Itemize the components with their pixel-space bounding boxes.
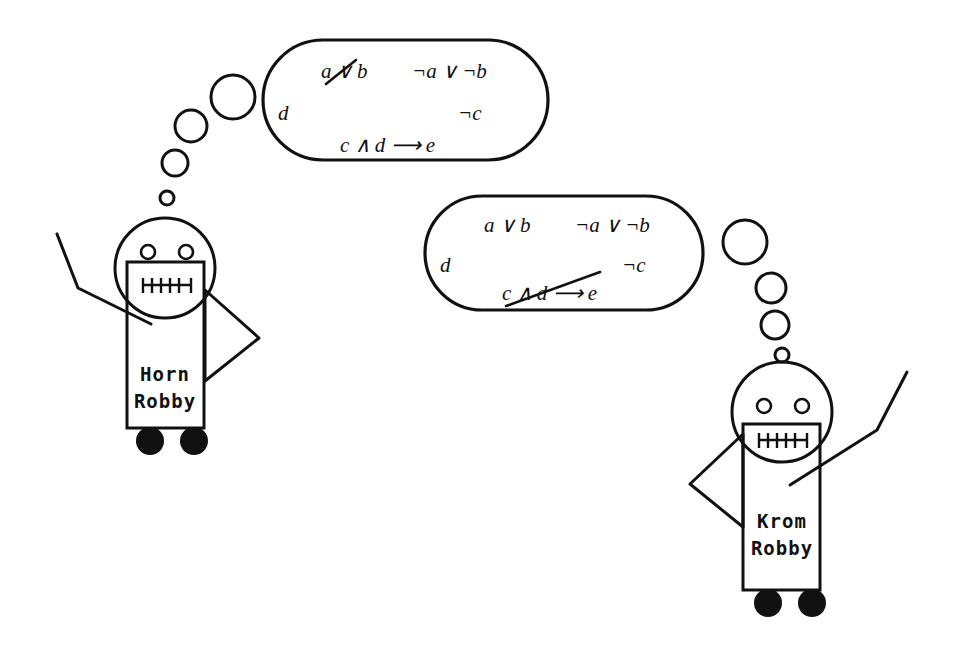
robot-right-arm: [205, 290, 259, 381]
krom-bubble-formulas: a ∨ b ¬a ∨ ¬b d ¬c c ∧ d ⟶ e: [440, 213, 650, 306]
robot-mouth: [759, 433, 807, 448]
robot-wheel-left: [754, 589, 782, 617]
formula-not-c: ¬c: [458, 101, 482, 125]
horn-bubble-formulas: a ∨ b ¬a ∨ ¬b d ¬c c ∧ d ⟶ e: [278, 59, 487, 157]
formula-not-c: ¬c: [622, 253, 646, 277]
illustration-svg: Horn Robby: [0, 0, 955, 646]
robot-name-line2: Robby: [134, 390, 196, 412]
drawing-canvas: Horn Robby: [0, 0, 955, 646]
thought-dot-3: [761, 311, 789, 339]
robot-mouth: [143, 278, 191, 293]
thought-dot-4: [160, 191, 174, 205]
robot-name-line1: Horn: [140, 363, 190, 385]
robot-right-arm: [790, 372, 907, 485]
formula-not-a-or-not-b: ¬a ∨ ¬b: [412, 59, 487, 83]
robot-eye-left: [757, 399, 771, 413]
robot-eye-right: [795, 399, 809, 413]
robot-body: [743, 424, 820, 590]
thought-dot-1: [723, 220, 767, 264]
horn-robby[interactable]: Horn Robby: [57, 218, 259, 455]
formula-a-or-b: a ∨ b: [484, 213, 531, 237]
robot-left-arm: [690, 434, 743, 527]
robot-eye-right: [179, 245, 193, 259]
thought-dot-2: [175, 110, 207, 142]
formula-d: d: [278, 101, 289, 125]
robot-eye-left: [141, 245, 155, 259]
krom-bubble-trail: [723, 220, 789, 362]
horn-bubble-trail: [160, 75, 255, 205]
robot-wheel-right: [798, 589, 826, 617]
robot-head: [115, 218, 215, 318]
thought-dot-3: [162, 150, 188, 176]
formula-not-a-or-not-b: ¬a ∨ ¬b: [575, 213, 650, 237]
formula-c-and-d-implies-e: c ∧ d ⟶ e: [340, 133, 435, 157]
robot-wheel-left: [136, 427, 164, 455]
robot-head: [732, 362, 832, 462]
robot-wheel-right: [180, 427, 208, 455]
thought-dot-4: [775, 348, 789, 362]
thought-dot-2: [756, 273, 786, 303]
robot-name-line1: Krom: [757, 510, 807, 532]
formula-d: d: [440, 253, 451, 277]
thought-dot-1: [211, 75, 255, 119]
krom-robby[interactable]: Krom Robby: [690, 362, 907, 617]
robot-name-line2: Robby: [751, 537, 813, 559]
